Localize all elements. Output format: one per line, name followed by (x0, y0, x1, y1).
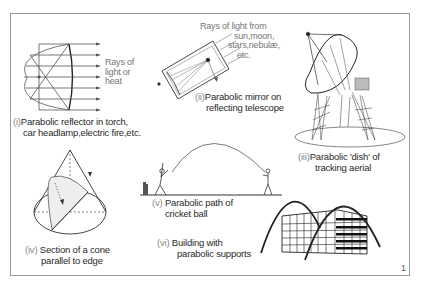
caption-line: parabolic supports (157, 249, 251, 260)
annotation-line: heat (105, 77, 134, 87)
caption-line: Parabolic 'dish' of (310, 151, 380, 162)
cone-section-illustration (34, 150, 106, 234)
caption-numeral: (iv) (25, 244, 37, 255)
parabolic-reflector-illustration (24, 43, 101, 112)
caption-panel-vi: (vi) Building with parabolic supports (157, 238, 251, 259)
building-parabolic-supports-illustration (261, 202, 380, 260)
caption-panel-ii: (ii)Parabolic mirror on reflecting teles… (195, 92, 284, 113)
caption-panel-v: (v) Parabolic path of cricket ball (152, 198, 233, 219)
caption-line: tracking aerial (298, 163, 380, 174)
caption-line: Parabolic reflector in torch, (21, 116, 128, 127)
caption-numeral: (i) (13, 116, 21, 127)
panel-ii-annotation: Rays of light from sun,moon, stars,nebul… (206, 22, 306, 60)
caption-numeral: (iii) (298, 151, 310, 162)
cricket-ball-path-illustration (140, 144, 282, 196)
caption-numeral: (ii) (195, 91, 205, 102)
caption-line: reflecting telescope (195, 103, 284, 114)
panel-i-annotation: Rays of light or heat (105, 58, 134, 87)
tracking-aerial-illustration (295, 32, 405, 147)
caption-line: Parabolic path of (165, 197, 233, 208)
caption-numeral: (v) (152, 197, 162, 208)
caption-panel-iv: (iv) Section of a cone parallel to edge (25, 245, 110, 266)
annotation-line: stars,nebulæ, (206, 41, 306, 51)
caption-line: Building with (172, 237, 223, 248)
caption-numeral: (vi) (157, 237, 169, 248)
caption-line: Parabolic mirror on (205, 91, 281, 102)
caption-line: car headlamp,electric fire,etc. (13, 128, 141, 139)
caption-panel-i: (i)Parabolic reflector in torch, car hea… (13, 117, 141, 138)
caption-line: parallel to edge (25, 256, 110, 267)
annotation-line: etc. (206, 51, 306, 61)
caption-line: Section of a cone (40, 244, 110, 255)
caption-panel-iii: (iii)Parabolic 'dish' of tracking aerial (298, 152, 380, 173)
caption-line: cricket ball (152, 209, 233, 220)
figure-number: 1 (401, 263, 406, 273)
